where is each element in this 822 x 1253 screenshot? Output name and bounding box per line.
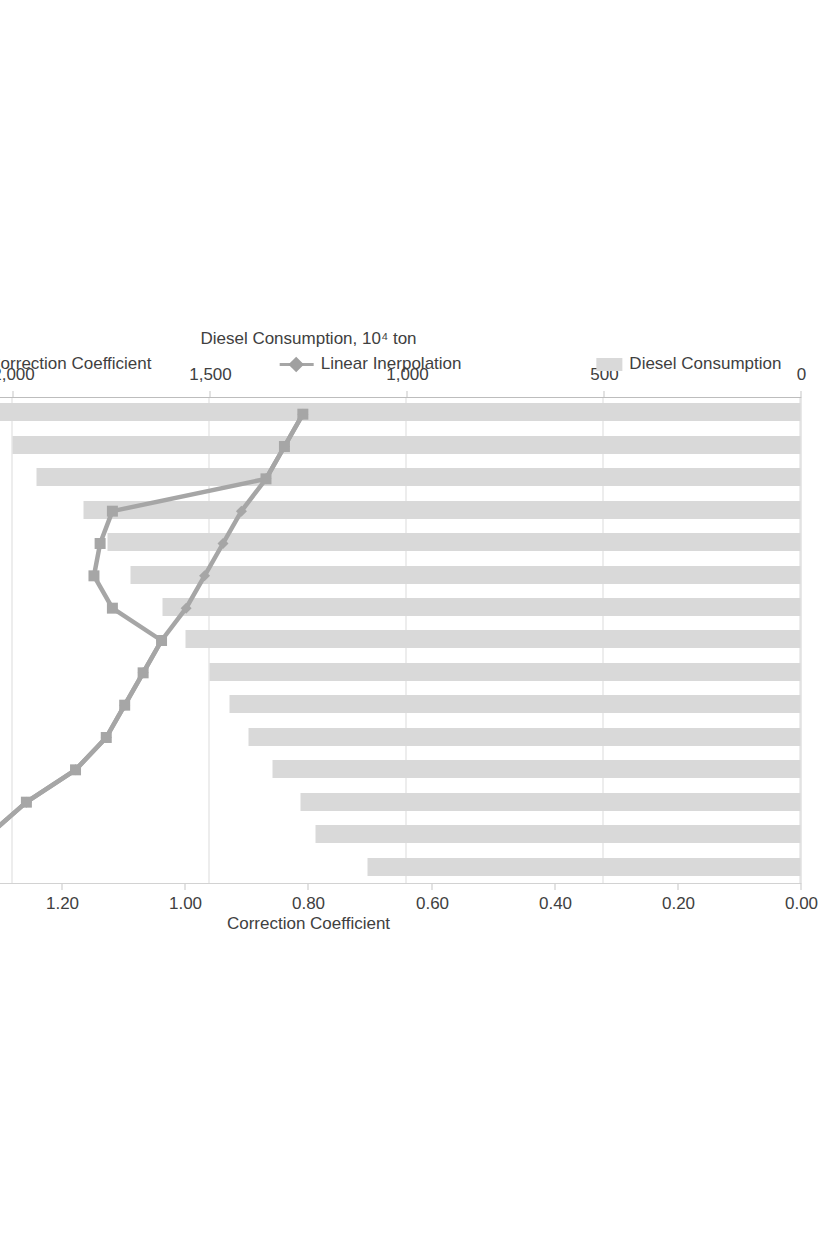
line-path (0, 414, 303, 867)
legend-bar-swatch (596, 357, 622, 370)
data-point-marker (107, 505, 118, 516)
data-point-marker (70, 764, 81, 775)
axis-tick-mark (554, 884, 555, 890)
axis-tick-mark (431, 884, 432, 890)
axis-tick-mark (801, 884, 802, 890)
plot-area (0, 397, 802, 884)
data-point-marker (107, 602, 118, 613)
line-series-layer (0, 398, 801, 883)
legend-marker-icon (288, 356, 304, 372)
chart-legend: Diesel ConsumptionLinear InerpolationCor… (0, 334, 792, 374)
primary-axis-tick-label: 0 (797, 365, 806, 385)
axis-tick-mark (62, 884, 63, 890)
axis-tick-mark (801, 391, 802, 397)
axis-tick-mark (407, 391, 408, 397)
data-point-marker (138, 667, 149, 678)
legend-item[interactable]: Diesel Consumption (596, 354, 781, 374)
data-point-marker (156, 635, 167, 646)
chart-canvas: Correction Coefficient 0.000.200.400.600… (0, 312, 822, 942)
secondary-axis-tick-label: 0.40 (539, 894, 572, 914)
secondary-axis-tick-label: 1.00 (169, 894, 202, 914)
axis-tick-mark (604, 391, 605, 397)
axis-tick-mark (13, 391, 14, 397)
legend-line-swatch (280, 358, 314, 370)
chart-plot-wrapper: Correction Coefficient 0.000.200.400.600… (0, 312, 822, 942)
secondary-axis-tick-label: 0.00 (785, 894, 818, 914)
data-point-marker (297, 408, 308, 419)
axis-tick-mark (308, 884, 309, 890)
data-point-marker (88, 570, 99, 581)
data-point-marker (21, 796, 32, 807)
legend-item[interactable]: Correction Coefficient (0, 354, 152, 374)
data-point-marker (101, 732, 112, 743)
legend-label: Linear Inerpolation (321, 354, 462, 374)
data-point-marker (279, 441, 290, 452)
legend-label: Diesel Consumption (629, 354, 781, 374)
legend-item[interactable]: Linear Inerpolation (280, 354, 462, 374)
axis-tick-mark (210, 391, 211, 397)
secondary-axis-tick-label: 0.80 (292, 894, 325, 914)
secondary-axis-tick-label: 0.20 (662, 894, 695, 914)
axis-tick-mark (185, 884, 186, 890)
data-point-marker (119, 699, 130, 710)
secondary-axis-tick-label: 1.20 (46, 894, 79, 914)
secondary-axis-tick-label: 0.60 (416, 894, 449, 914)
secondary-axis-title: Correction Coefficient (227, 914, 390, 934)
axis-tick-mark (677, 884, 678, 890)
legend-label: Correction Coefficient (0, 354, 152, 374)
data-point-marker (261, 473, 272, 484)
data-point-marker (95, 538, 106, 549)
